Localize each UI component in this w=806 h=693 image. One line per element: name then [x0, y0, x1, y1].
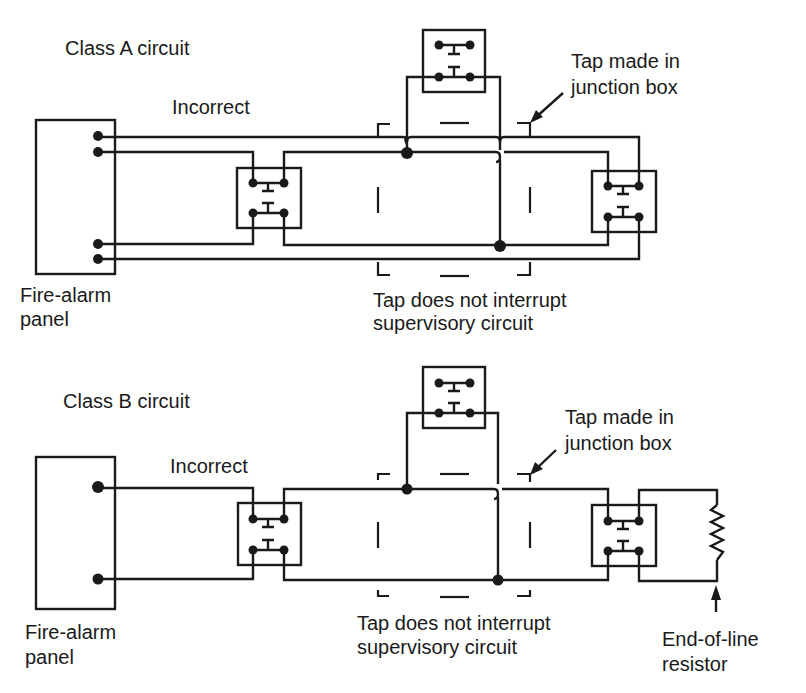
class-b-title: Class B circuit: [63, 389, 190, 413]
eol-label-line1: End-of-line: [662, 627, 759, 651]
class-b-junction-box-outline: [378, 474, 530, 597]
class-a-tap-junction-dot: [494, 240, 506, 252]
eol-label-line2: resistor: [662, 652, 728, 676]
class-b-panel-label-line2: panel: [25, 645, 74, 669]
class-a-status-label: Incorrect: [172, 95, 250, 119]
class-a-circuit: [36, 30, 656, 276]
class-a-fire-alarm-panel: [36, 120, 115, 274]
class-a-panel-label-line2: panel: [20, 307, 69, 331]
class-a-tapped-initiating-device: [423, 30, 485, 92]
class-a-panel-label-line1: Fire-alarm: [20, 283, 111, 307]
class-b-fire-alarm-panel: [36, 457, 115, 609]
class-a-left-initiating-device: [237, 168, 301, 228]
class-a-right-initiating-device: [592, 171, 656, 232]
class-b-tap-junction-dot: [493, 575, 504, 586]
class-b-tap-note-line1: Tap does not interrupt: [357, 611, 550, 635]
class-b-right-initiating-device: [592, 505, 656, 566]
class-b-tap-junction-dot: [402, 484, 413, 495]
class-a-tap-callout-arrow: [530, 93, 563, 123]
class-b-panel-terminals: [92, 481, 104, 585]
class-a-tap-note-line2: supervisory circuit: [373, 311, 533, 335]
class-a-tap-callout-line1: Tap made in: [571, 49, 680, 73]
eol-resistor-callout-arrow: [711, 585, 721, 612]
class-b-tap-callout-line2: junction box: [565, 431, 672, 455]
class-a-title: Class A circuit: [65, 36, 189, 60]
class-a-tap-junction-dot: [401, 147, 413, 159]
end-of-line-resistor-symbol: [711, 505, 723, 560]
class-b-status-label: Incorrect: [170, 454, 248, 478]
class-b-panel-label-line1: Fire-alarm: [25, 620, 116, 644]
class-b-tapped-initiating-device: [423, 367, 485, 428]
class-a-tap-note-line1: Tap does not interrupt: [373, 288, 566, 312]
wiring-diagram: Class A circuit Incorrect Fire-alarm pan…: [0, 0, 806, 693]
circuit-drawing: [0, 0, 806, 693]
class-a-junction-box-outline: [378, 123, 530, 276]
class-a-tap-callout-line2: junction box: [571, 75, 678, 99]
class-b-tap-note-line2: supervisory circuit: [357, 635, 517, 659]
class-b-left-initiating-device: [238, 503, 301, 565]
class-b-tap-callout-arrow: [530, 450, 556, 475]
class-b-tap-callout-line1: Tap made in: [565, 405, 674, 429]
